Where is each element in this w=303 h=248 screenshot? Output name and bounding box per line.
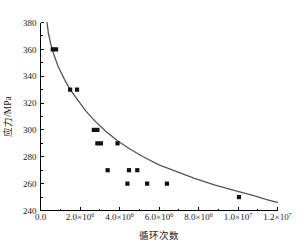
data-point bbox=[95, 128, 99, 132]
data-point bbox=[68, 88, 72, 92]
x-tick-label-8000000: 8.0×106 bbox=[184, 212, 212, 222]
y-axis-tick-labels: 240260280300320340360380 bbox=[23, 18, 37, 216]
axes-group bbox=[41, 23, 278, 211]
y-tick-label-240: 240 bbox=[23, 206, 37, 216]
data-point bbox=[54, 47, 58, 51]
data-point bbox=[75, 88, 79, 92]
y-axis-title: 应力/MPa bbox=[2, 95, 13, 136]
data-point bbox=[135, 168, 139, 172]
fit-curve bbox=[47, 23, 277, 203]
y-tick-label-320: 320 bbox=[23, 98, 37, 108]
data-point bbox=[99, 141, 103, 145]
y-tick-label-260: 260 bbox=[23, 179, 37, 189]
x-tick-label-6000000: 6.0×106 bbox=[145, 212, 173, 222]
x-axis-title: 循环次数 bbox=[139, 230, 179, 241]
data-point bbox=[115, 141, 119, 145]
chart-canvas: 0.02.0×1064.0×1066.0×1068.0×1061.0×1071.… bbox=[0, 0, 303, 248]
x-tick-label-2000000: 2.0×106 bbox=[66, 212, 94, 222]
y-tick-label-280: 280 bbox=[23, 152, 37, 162]
data-points-group bbox=[51, 47, 241, 199]
x-axis-ticks bbox=[41, 207, 278, 211]
data-point bbox=[237, 195, 241, 199]
x-tick-label-4000000: 4.0×106 bbox=[105, 212, 133, 222]
data-point bbox=[106, 168, 110, 172]
data-point bbox=[165, 182, 169, 186]
data-point bbox=[125, 182, 129, 186]
x-tick-label-10000000: 1.0×107 bbox=[224, 212, 252, 222]
fit-curve-group bbox=[47, 23, 277, 203]
y-tick-label-380: 380 bbox=[23, 18, 37, 28]
axis-spines bbox=[41, 23, 278, 211]
data-point bbox=[127, 168, 131, 172]
data-point bbox=[145, 182, 149, 186]
x-tick-label-12000000: 1.2×107 bbox=[263, 212, 291, 222]
fatigue-sn-chart: 0.02.0×1064.0×1066.0×1068.0×1061.0×1071.… bbox=[0, 0, 303, 248]
x-axis-tick-labels: 0.02.0×1064.0×1066.0×1068.0×1061.0×1071.… bbox=[35, 212, 292, 222]
y-axis-ticks bbox=[41, 23, 45, 211]
y-tick-label-340: 340 bbox=[23, 71, 37, 81]
y-tick-label-360: 360 bbox=[23, 45, 37, 55]
y-tick-label-300: 300 bbox=[23, 125, 37, 135]
x-tick-label-0: 0.0 bbox=[35, 212, 47, 222]
